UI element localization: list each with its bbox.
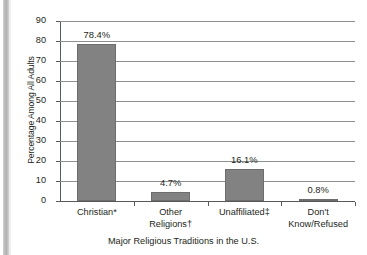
plot-area: 908070605040302010078.4%Christian*4.7%Ot… — [60, 21, 355, 201]
y-tick-10 — [56, 181, 60, 182]
x-tick-end — [355, 202, 356, 206]
y-tick-label: 80 — [20, 36, 46, 45]
x-tick — [134, 202, 135, 206]
x-axis-title: Major Religious Traditions in the U.S. — [0, 236, 367, 246]
y-tick-label: 70 — [20, 56, 46, 65]
bar-chart-figure: Percentage Among All Adults 908070605040… — [0, 0, 367, 255]
bar[interactable] — [225, 169, 264, 201]
y-tick-label: 40 — [20, 116, 46, 125]
bar[interactable] — [299, 199, 338, 201]
y-tick-label: 50 — [20, 96, 46, 105]
y-tick-label: 30 — [20, 136, 46, 145]
y-tick-label: 20 — [20, 156, 46, 165]
y-tick-label: 60 — [20, 76, 46, 85]
y-axis-line — [60, 21, 61, 202]
bar[interactable] — [151, 192, 190, 201]
bar[interactable] — [77, 44, 116, 201]
bar-value-label: 78.4% — [67, 30, 127, 40]
y-tick-20 — [56, 161, 60, 162]
x-tick — [208, 202, 209, 206]
y-tick-50 — [56, 101, 60, 102]
category-label: Don't Know/Refused — [273, 207, 363, 230]
y-tick-60 — [56, 81, 60, 82]
y-tick-40 — [56, 121, 60, 122]
bar-value-label: 4.7% — [141, 178, 201, 188]
y-tick-label: 90 — [20, 16, 46, 25]
y-tick-label: 0 — [20, 196, 46, 205]
y-tick-90 — [56, 21, 60, 22]
gridline-90 — [60, 21, 355, 22]
bar-value-label: 0.8% — [288, 185, 348, 195]
bar-value-label: 16.1% — [214, 155, 274, 165]
y-tick-30 — [56, 141, 60, 142]
y-tick-label: 10 — [20, 176, 46, 185]
x-tick — [281, 202, 282, 206]
y-tick-80 — [56, 41, 60, 42]
y-tick-70 — [56, 61, 60, 62]
y-tick-0 — [56, 201, 60, 202]
gridline-80 — [60, 41, 355, 42]
